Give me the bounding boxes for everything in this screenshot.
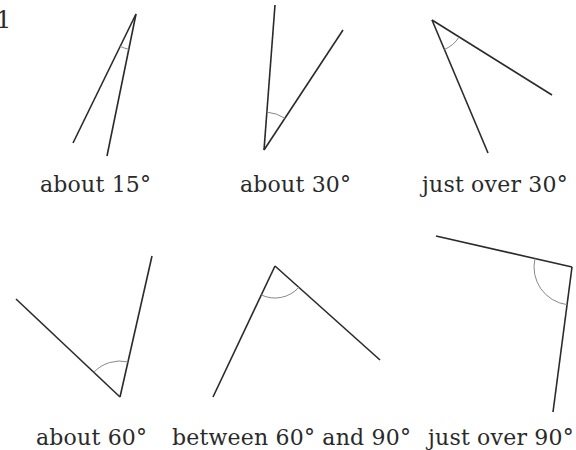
angle-arm <box>120 256 152 397</box>
angle-arm <box>436 236 572 267</box>
angle-4 <box>16 256 152 397</box>
angle-2 <box>264 5 343 150</box>
angle-arm <box>432 20 488 153</box>
angle-label-3: just over 30° <box>422 172 568 197</box>
angle-arc <box>261 287 299 298</box>
angle-arm <box>264 30 343 150</box>
angle-arm <box>73 14 136 143</box>
angle-arc <box>94 361 128 372</box>
angle-label-6: just over 90° <box>428 425 574 450</box>
angle-6 <box>436 236 572 412</box>
angle-arc <box>120 46 129 49</box>
angle-arm <box>275 266 380 360</box>
angle-arc <box>267 112 285 118</box>
angle-label-5: between 60° and 90° <box>172 425 411 450</box>
angle-1 <box>73 14 136 156</box>
angle-arm <box>264 5 275 150</box>
angle-arm <box>213 266 275 397</box>
angle-arm <box>107 14 136 156</box>
angle-label-1: about 15° <box>40 172 151 197</box>
angle-3 <box>432 20 552 153</box>
angle-arm <box>553 267 572 412</box>
angle-arm <box>16 299 120 397</box>
angle-arm <box>432 20 552 95</box>
angle-label-4: about 60° <box>36 425 147 450</box>
angle-label-2: about 30° <box>240 172 351 197</box>
angle-5 <box>213 266 380 397</box>
angle-arc <box>444 37 459 50</box>
